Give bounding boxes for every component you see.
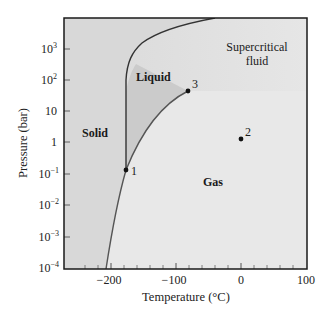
liquid-region-label: Liquid	[136, 70, 171, 84]
svg-text:10−3: 10−3	[38, 229, 59, 244]
point-3-label: 3	[192, 77, 198, 91]
solid-region-label: Solid	[82, 126, 108, 140]
gas-region-label: Gas	[203, 175, 223, 189]
svg-text:−100: −100	[162, 273, 187, 287]
svg-text:−200: −200	[97, 273, 122, 287]
svg-text:102: 102	[41, 72, 57, 87]
svg-text:10: 10	[45, 104, 57, 118]
svg-text:1: 1	[51, 135, 57, 149]
svg-text:103: 103	[41, 41, 57, 56]
x-axis-title: Temperature (°C)	[142, 290, 230, 304]
x-tick-labels: −200 −100 0 100	[97, 273, 315, 287]
svg-text:10−2: 10−2	[38, 197, 59, 212]
point-2-marker	[239, 137, 244, 142]
phase-diagram: 1 2 3 Solid Liquid Gas Supercritical flu…	[0, 0, 325, 314]
point-1-marker	[124, 168, 129, 173]
y-axis-title: Pressure (bar)	[16, 108, 30, 178]
svg-text:10−4: 10−4	[38, 260, 59, 275]
y-tick-labels: 103 102 10 1 10−1 10−2 10−3 10−4	[38, 41, 59, 275]
svg-text:100: 100	[297, 273, 315, 287]
point-3-marker	[186, 89, 191, 94]
svg-text:0: 0	[238, 273, 244, 287]
point-2-label: 2	[245, 125, 251, 139]
point-1-label: 1	[131, 164, 137, 178]
supercritical-label-line1: Supercritical	[226, 40, 288, 54]
supercritical-label-line2: fluid	[246, 54, 269, 68]
svg-text:10−1: 10−1	[38, 166, 59, 181]
